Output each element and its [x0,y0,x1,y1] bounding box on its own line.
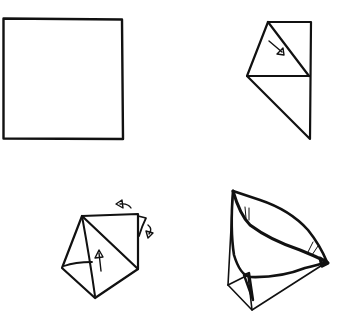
step-1-square [4,19,124,140]
step-2-diagonal-fold [247,22,311,139]
step-3-triangle-fold [62,200,153,298]
fold-arrow-up-icon [95,250,103,271]
origami-diagram: origami-instructions [0,0,346,330]
step-4-finished-cup [228,191,328,310]
fold-arrow-down-right-icon [269,41,284,55]
rotate-arrow-down-icon [146,225,153,238]
top-right-flap [138,216,146,236]
rotate-arrow-left-icon [116,200,131,208]
